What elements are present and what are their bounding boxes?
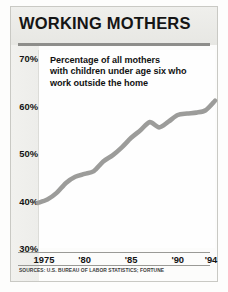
y-axis-line — [38, 50, 39, 253]
title-divider — [18, 43, 210, 46]
x-axis-tick-label: 1975 — [34, 254, 55, 265]
y-axis-tick-labels: 70%60%50%40%30% — [0, 0, 38, 292]
page-title: WORKING MOTHERS — [19, 14, 191, 33]
x-axis-rule-bottom — [18, 265, 210, 266]
y-axis-tick-label: 60% — [4, 101, 38, 112]
y-axis-tick-label: 40% — [4, 196, 38, 207]
chart-subtitle: Percentage of all mothers with children … — [50, 55, 210, 89]
chart-subtitle-line: work outside the home — [50, 78, 210, 89]
x-axis-tick-label: '94 — [205, 254, 218, 265]
x-axis-tick-label: '80 — [78, 254, 91, 265]
x-axis-tick-label: '90 — [171, 254, 184, 265]
x-axis-tick-label: '85 — [125, 254, 138, 265]
chart-subtitle-line: with children under age six who — [50, 66, 210, 77]
source-note: SOURCES: U.S. BUREAU OF LABOR STATISTICS… — [19, 268, 164, 273]
x-axis-rule-top — [18, 252, 210, 253]
chart-subtitle-line: Percentage of all mothers — [50, 55, 210, 66]
y-axis-tick-label: 70% — [4, 53, 38, 64]
y-axis-tick-label: 50% — [4, 148, 38, 159]
chart-figure: WORKING MOTHERS Percentage of all mother… — [0, 0, 228, 292]
